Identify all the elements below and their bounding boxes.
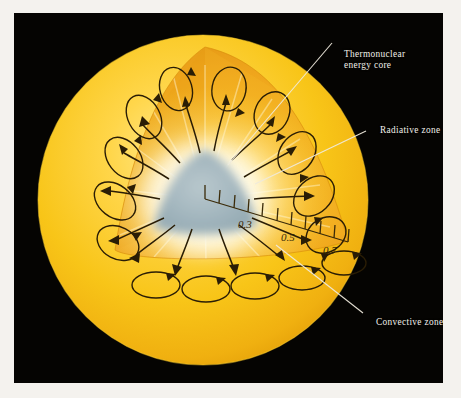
label-core-line1: Thermonuclear — [344, 49, 405, 60]
image-plate: 0.3 0.5 0.7 — [14, 13, 443, 383]
label-radiative-zone: Radiative zone — [380, 125, 440, 136]
figure-page: 0.3 0.5 0.7 — [0, 0, 461, 398]
label-core-line2: energy core — [344, 60, 405, 71]
label-thermonuclear-energy-core: Thermonuclear energy core — [344, 49, 405, 72]
ruler-label-0-3: 0.3 — [238, 218, 252, 230]
label-convective-zone: Convective zone — [376, 317, 443, 328]
